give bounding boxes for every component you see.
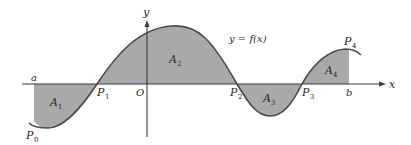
svg-text:2: 2 bbox=[238, 93, 242, 101]
curve-label: y = f(x) bbox=[228, 33, 267, 44]
svg-text:P: P bbox=[343, 35, 352, 48]
bound-b-label: b bbox=[346, 87, 352, 98]
svg-text:A: A bbox=[168, 53, 177, 66]
point-p4: P 4 bbox=[343, 35, 357, 50]
svg-text:P: P bbox=[96, 86, 105, 99]
svg-text:A: A bbox=[49, 96, 58, 109]
svg-text:P: P bbox=[301, 86, 310, 99]
point-p0: P 0 bbox=[25, 129, 38, 144]
svg-text:P: P bbox=[25, 129, 34, 142]
svg-text:1: 1 bbox=[105, 93, 109, 101]
svg-text:0: 0 bbox=[34, 136, 38, 144]
x-axis-label: x bbox=[389, 78, 396, 91]
svg-text:1: 1 bbox=[58, 103, 62, 111]
point-p3: P 3 bbox=[301, 86, 314, 101]
y-axis-arrow-icon bbox=[145, 20, 150, 27]
area-diagram: y x O a b y = f(x) P 0 P 1 P 2 P 3 P 4 A… bbox=[0, 0, 411, 145]
svg-text:P: P bbox=[229, 86, 238, 99]
svg-text:2: 2 bbox=[177, 60, 181, 68]
svg-text:4: 4 bbox=[352, 42, 357, 50]
svg-text:A: A bbox=[262, 92, 271, 105]
svg-text:3: 3 bbox=[310, 93, 314, 101]
point-p1: P 1 bbox=[96, 86, 109, 101]
svg-text:3: 3 bbox=[271, 99, 275, 107]
x-axis-arrow-icon bbox=[379, 82, 386, 87]
svg-text:4: 4 bbox=[333, 71, 338, 79]
origin-label: O bbox=[136, 87, 144, 98]
y-axis-label: y bbox=[142, 6, 150, 19]
bound-a-label: a bbox=[31, 72, 37, 83]
svg-text:A: A bbox=[324, 64, 333, 77]
